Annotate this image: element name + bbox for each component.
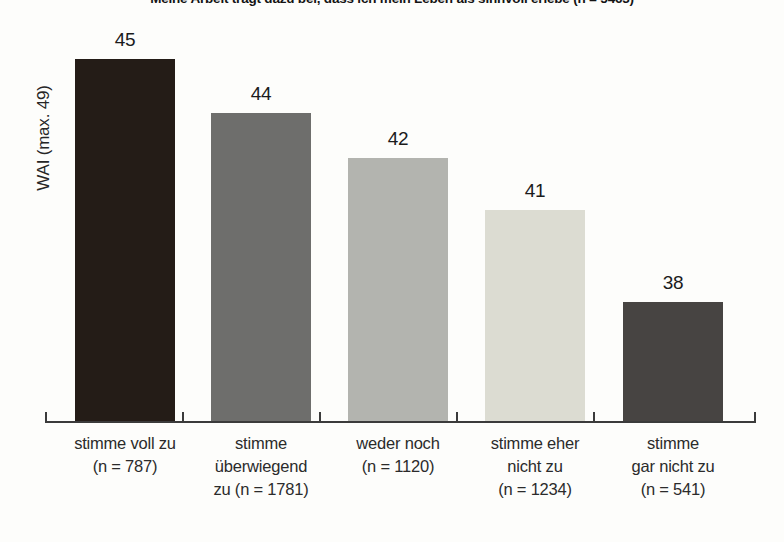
category-label-2-line-3: zu (n = 1781) xyxy=(186,478,336,501)
bar-2[interactable] xyxy=(211,113,311,423)
bar-4[interactable] xyxy=(485,210,585,423)
category-label-5-line-2: gar nicht zu xyxy=(598,455,748,478)
bar-1[interactable] xyxy=(75,59,175,423)
category-label-4-line-3: (n = 1234) xyxy=(460,478,610,501)
x-axis-category-labels: stimme voll zu (n = 787) stimme überwieg… xyxy=(45,432,756,527)
axis-tick-3 xyxy=(456,412,458,422)
category-label-4: stimme eher nicht zu (n = 1234) xyxy=(460,432,610,501)
bar-5[interactable] xyxy=(623,302,723,423)
category-label-5-line-1: stimme xyxy=(598,432,748,455)
bar-value-4: 41 xyxy=(485,180,585,202)
chart-title: Meine Arbeit trägt dazu bei, dass ich me… xyxy=(0,0,784,6)
axis-tick-5 xyxy=(754,412,756,422)
x-axis-line xyxy=(45,421,756,423)
category-label-4-line-1: stimme eher xyxy=(460,432,610,455)
category-label-1: stimme voll zu (n = 787) xyxy=(50,432,200,478)
category-label-1-line-2: (n = 787) xyxy=(50,455,200,478)
category-label-2-line-2: überwiegend xyxy=(186,455,336,478)
axis-tick-2 xyxy=(319,412,321,422)
bar-value-1: 45 xyxy=(75,29,175,51)
bar-value-2: 44 xyxy=(211,83,311,105)
category-label-3-line-2: (n = 1120) xyxy=(323,455,473,478)
bar-value-3: 42 xyxy=(348,128,448,150)
axis-tick-1 xyxy=(182,412,184,422)
category-label-5-line-3: (n = 541) xyxy=(598,478,748,501)
category-label-1-line-1: stimme voll zu xyxy=(50,432,200,455)
bar-value-5: 38 xyxy=(623,272,723,294)
bar-chart: Meine Arbeit trägt dazu bei, dass ich me… xyxy=(0,0,784,542)
category-label-4-line-2: nicht zu xyxy=(460,455,610,478)
category-label-2-line-1: stimme xyxy=(186,432,336,455)
category-label-3: weder noch (n = 1120) xyxy=(323,432,473,478)
plot-area: 45 44 42 41 38 xyxy=(45,20,755,423)
axis-tick-0 xyxy=(45,412,47,422)
axis-tick-4 xyxy=(593,412,595,422)
category-label-3-line-1: weder noch xyxy=(323,432,473,455)
category-label-2: stimme überwiegend zu (n = 1781) xyxy=(186,432,336,501)
bar-3[interactable] xyxy=(348,158,448,423)
category-label-5: stimme gar nicht zu (n = 541) xyxy=(598,432,748,501)
